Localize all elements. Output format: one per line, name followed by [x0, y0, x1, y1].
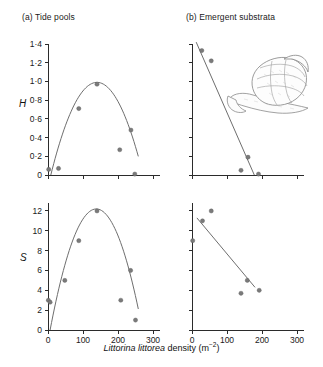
- data-point: [63, 278, 67, 282]
- y-tick-label: 1·0: [30, 76, 43, 86]
- data-point: [118, 148, 122, 152]
- data-point: [56, 166, 60, 170]
- panel-a-S: 0246810120100200300: [33, 203, 161, 345]
- y-tick-label: 0·6: [30, 114, 43, 124]
- data-point: [48, 300, 52, 304]
- data-point: [129, 128, 133, 132]
- y-tick-label: 0·2: [30, 151, 43, 161]
- y-tick-label: 4: [37, 285, 42, 295]
- fit-curve: [51, 82, 139, 175]
- y-tick-label: 12: [33, 206, 43, 216]
- data-point: [209, 59, 213, 63]
- caption-paren: ): [216, 343, 219, 353]
- data-point: [200, 48, 204, 52]
- data-point: [119, 298, 123, 302]
- data-point: [257, 288, 261, 292]
- axis-spines: [192, 203, 304, 330]
- data-point: [77, 239, 81, 243]
- littorina-snail-illustration: [224, 52, 316, 126]
- data-point: [129, 268, 133, 272]
- data-point: [209, 209, 213, 213]
- y-tick-label: 1·4: [30, 39, 43, 49]
- axis-spines: [48, 44, 160, 175]
- y-tick-label: 10: [33, 226, 43, 236]
- data-point: [256, 172, 260, 176]
- figure-panel-grid: (a) Tide pools (b) Emergent substrata H …: [0, 0, 323, 367]
- species-name: Littorina littorea: [104, 343, 166, 353]
- data-point: [200, 219, 204, 223]
- y-tick-label: 0: [37, 325, 42, 335]
- caption-density-word: density (m: [165, 343, 209, 353]
- data-point: [239, 291, 243, 295]
- x-axis-caption: Littorina littorea density (m−2): [0, 341, 323, 353]
- data-point: [95, 209, 99, 213]
- y-tick-label: 1·2: [30, 58, 43, 68]
- data-point: [77, 106, 81, 110]
- data-point: [95, 82, 99, 86]
- fit-curve: [50, 209, 138, 330]
- y-tick-label: 0·8: [30, 95, 43, 105]
- data-point: [191, 239, 195, 243]
- data-point: [133, 318, 137, 322]
- panel-b-S: 0100200300: [189, 203, 305, 345]
- y-tick-label: 6: [37, 265, 42, 275]
- y-tick-label: 0·4: [30, 133, 43, 143]
- data-point: [245, 278, 249, 282]
- panel-a-H: 00·20·40·60·81·01·21·4: [30, 39, 160, 180]
- data-point: [133, 172, 137, 176]
- y-tick-label: 8: [37, 246, 42, 256]
- fit-line: [197, 218, 255, 287]
- data-point: [246, 155, 250, 159]
- y-tick-label: 2: [37, 305, 42, 315]
- data-point: [239, 168, 243, 172]
- data-point: [47, 167, 51, 171]
- y-tick-label: 0: [37, 170, 42, 180]
